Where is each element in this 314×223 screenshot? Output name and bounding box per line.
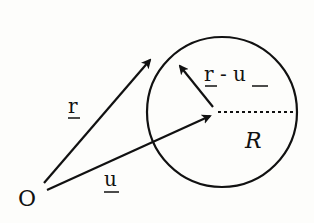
label-r-minus-u: r - u (204, 62, 246, 86)
diagram-canvas: O r u r - u R (0, 0, 314, 223)
vector-u-arrow (47, 116, 210, 190)
label-r: r (68, 94, 78, 118)
label-radius: R (244, 128, 262, 153)
origin-label: O (18, 186, 36, 211)
vector-diagram: O r u r - u R (0, 0, 314, 223)
label-u: u (104, 167, 117, 191)
vector-r-arrow (44, 60, 150, 183)
